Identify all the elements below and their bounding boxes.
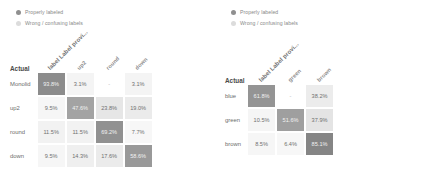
legend-item-wrong-labels: Wrong / confusing labels — [231, 19, 298, 28]
legend-item-wrong-labels: Wrong / confusing labels — [16, 19, 83, 28]
cell-value: 6.4% — [284, 141, 297, 147]
cell-value: 17.6% — [101, 153, 117, 159]
matrix-cell: 8.5% — [247, 132, 276, 156]
matrix-header-row: Actual label Label provi... up2 round do… — [10, 40, 153, 72]
cell-value: 38.2% — [312, 93, 328, 99]
cell-value: 10.5% — [254, 117, 270, 123]
matrix-cell: 14.3% — [66, 144, 95, 168]
matrix-cell: 38.2% — [305, 84, 334, 108]
column-header-cell: green — [276, 52, 305, 84]
cell-value: 9.5% — [45, 105, 58, 111]
row-label: up2 — [10, 96, 37, 120]
matrix-cell: 3.1% — [124, 72, 153, 96]
matrix-cell: 11.5% — [37, 120, 66, 144]
matrix-cell: 85.1% — [305, 132, 334, 156]
matrix-cell: 23.8% — [95, 96, 124, 120]
matrix-cell: 69.2% — [95, 120, 124, 144]
matrix-cell: 47.6% — [66, 96, 95, 120]
matrix-cell: 9.5% — [37, 96, 66, 120]
legend-right: Properly labeled Wrong / confusing label… — [231, 8, 298, 30]
row-axis-label: Actual — [225, 52, 247, 84]
row-label: brown — [225, 132, 247, 156]
cell-value: 47.6% — [72, 105, 88, 111]
cell-value: 11.5% — [72, 129, 87, 135]
cell-value: 37.9% — [312, 117, 328, 123]
matrix-cell: 19.0% — [124, 96, 153, 120]
cell-value: 3.1% — [74, 81, 87, 87]
matrix-cell: 61.8% — [247, 84, 276, 108]
legend-item-label: Properly labeled — [240, 8, 278, 17]
row-label: green — [225, 108, 247, 132]
legend-item-label: Wrong / confusing labels — [25, 19, 83, 28]
column-header-cell: label Label provi... — [247, 52, 276, 84]
row-label: round — [10, 120, 37, 144]
cell-value: - — [290, 93, 292, 99]
column-header-cell: round — [95, 40, 124, 72]
table-row: round 11.5% 11.5% 69.2% 7.7% — [10, 120, 153, 144]
legend-item-properly-labeled: Properly labeled — [16, 8, 83, 17]
row-label: blue — [225, 84, 247, 108]
legend-item-label: Wrong / confusing labels — [240, 19, 298, 28]
cell-value: 93.8% — [43, 81, 59, 87]
cell-value: 69.2% — [101, 129, 117, 135]
matrix-cell: - — [95, 72, 124, 96]
cell-value: 14.3% — [72, 153, 88, 159]
cell-value: 8.5% — [255, 141, 268, 147]
legend-dot-icon — [231, 21, 236, 26]
table-row: down 9.5% 14.3% 17.6% 58.6% — [10, 144, 153, 168]
legend-left: Properly labeled Wrong / confusing label… — [16, 8, 83, 30]
matrix-cell: 58.6% — [124, 144, 153, 168]
column-header-cell: up2 — [66, 40, 95, 72]
column-header-cell: label Label provi... — [37, 40, 66, 72]
table-row: brown 8.5% 6.4% 85.1% — [225, 132, 334, 156]
table-row: up2 9.5% 47.6% 23.8% 19.0% — [10, 96, 153, 120]
legend-dot-icon — [16, 10, 21, 15]
table-row: blue 61.8% - 38.2% — [225, 84, 334, 108]
matrix-cell: 6.4% — [276, 132, 305, 156]
panel-eye-color: Properly labeled Wrong / confusing label… — [215, 0, 430, 187]
cell-value: 9.5% — [45, 153, 58, 159]
legend-item-properly-labeled: Properly labeled — [231, 8, 298, 17]
cell-value: 3.1% — [132, 81, 145, 87]
confusion-matrix-eyelid-shape: Actual label Label provi... up2 round do… — [10, 40, 153, 168]
matrix-cell: - — [276, 84, 305, 108]
confusion-matrix-page: Properly labeled Wrong / confusing label… — [0, 0, 430, 187]
column-header-label: green — [286, 68, 301, 83]
table-row: Monolid 93.8% 3.1% - 3.1% — [10, 72, 153, 96]
cell-value: 19.0% — [130, 105, 146, 111]
column-header-label: up2 — [76, 60, 87, 71]
column-header-label: down — [134, 56, 149, 71]
cell-value: 7.7% — [132, 129, 145, 135]
matrix-cell: 51.6% — [276, 108, 305, 132]
cell-value: 23.8% — [101, 105, 117, 111]
legend-dot-icon — [231, 10, 236, 15]
matrix-cell: 7.7% — [124, 120, 153, 144]
legend-dot-icon — [16, 21, 21, 26]
column-header-label: round — [105, 55, 121, 71]
matrix-header-row: Actual label Label provi... green brown — [225, 52, 334, 84]
cell-value: 61.8% — [254, 93, 270, 99]
matrix-cell: 93.8% — [37, 72, 66, 96]
matrix-cell: 11.5% — [66, 120, 95, 144]
row-label: down — [10, 144, 37, 168]
table-row: green 10.5% 51.6% 37.9% — [225, 108, 334, 132]
row-axis-label: Actual — [10, 40, 37, 72]
cell-value: 85.1% — [312, 141, 328, 147]
confusion-matrix-eye-color: Actual label Label provi... green brown … — [225, 52, 334, 156]
column-header-cell: down — [124, 40, 153, 72]
matrix-cell: 10.5% — [247, 108, 276, 132]
cell-value: 51.6% — [283, 117, 299, 123]
legend-item-label: Properly labeled — [25, 8, 63, 17]
row-label: Monolid — [10, 72, 37, 96]
column-header-cell: brown — [305, 52, 334, 84]
cell-value: 11.5% — [43, 129, 58, 135]
matrix-cell: 17.6% — [95, 144, 124, 168]
matrix-cell: 37.9% — [305, 108, 334, 132]
panel-eyelid-shape: Properly labeled Wrong / confusing label… — [0, 0, 215, 187]
column-header-label: brown — [315, 67, 331, 83]
cell-value: 58.6% — [130, 153, 146, 159]
cell-value: - — [108, 81, 110, 87]
matrix-cell: 9.5% — [37, 144, 66, 168]
matrix-cell: 3.1% — [66, 72, 95, 96]
